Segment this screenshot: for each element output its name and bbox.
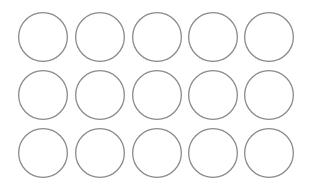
circle-r1-c5 [245,13,294,62]
circle-r2-c2 [76,71,125,120]
circle-r1-c3 [133,13,182,62]
circle-r3-c3 [133,129,182,178]
circle-r3-c1 [19,129,68,178]
circle-r3-c5 [245,129,294,178]
circle-r2-c4 [189,71,238,120]
circle-r2-c3 [133,71,182,120]
circle-r1-c1 [19,13,68,62]
circle-r1-c4 [189,13,238,62]
circle-r3-c2 [76,129,125,178]
circle-r1-c2 [76,13,125,62]
circle-grid [0,0,309,192]
circle-r3-c4 [189,129,238,178]
circle-r2-c5 [245,71,294,120]
circle-r2-c1 [19,71,68,120]
